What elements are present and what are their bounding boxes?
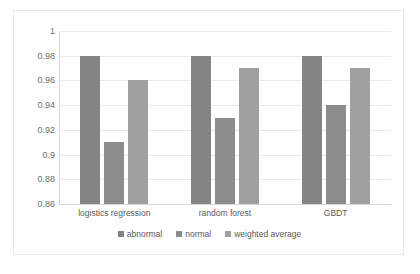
- chart-legend: abnormalnormalweighted average: [14, 229, 405, 239]
- chart-frame: 0.860.880.90.920.940.960.981 logistics r…: [13, 10, 404, 255]
- legend-label: weighted average: [234, 229, 301, 239]
- bar-weighted-average-random-forest: [239, 68, 259, 204]
- y-tick-label: 1: [15, 26, 55, 36]
- category-label: GBDT: [280, 207, 391, 219]
- gridline: [59, 80, 391, 81]
- gridline: [59, 204, 391, 205]
- bar-abnormal-logistics-regression: [80, 56, 100, 204]
- legend-item-abnormal[interactable]: abnormal: [118, 229, 162, 239]
- y-tick-label: 0.86: [15, 199, 55, 209]
- x-axis-category-labels: logistics regressionrandom forestGBDT: [59, 207, 391, 223]
- y-tick-label: 0.9: [15, 150, 55, 160]
- bar-weighted-average-logistics-regression: [128, 80, 148, 204]
- y-tick-label: 0.96: [15, 75, 55, 85]
- bar-weighted-average-GBDT: [350, 68, 370, 204]
- bar-abnormal-GBDT: [302, 56, 322, 204]
- legend-item-normal[interactable]: normal: [176, 229, 211, 239]
- y-axis-tick-labels: 0.860.880.90.920.940.960.981: [14, 31, 55, 204]
- y-tick-label: 0.94: [15, 100, 55, 110]
- bar-normal-logistics-regression: [104, 142, 124, 204]
- legend-swatch-icon: [176, 231, 182, 237]
- category-label: logistics regression: [59, 207, 170, 219]
- legend-label: abnormal: [127, 229, 162, 239]
- gridline: [59, 56, 391, 57]
- gridline: [59, 31, 391, 32]
- legend-swatch-icon: [118, 231, 124, 237]
- legend-label: normal: [185, 229, 211, 239]
- category-label: random forest: [170, 207, 281, 219]
- legend-item-weighted-average[interactable]: weighted average: [225, 229, 301, 239]
- y-tick-label: 0.88: [15, 174, 55, 184]
- bar-normal-random-forest: [215, 118, 235, 205]
- legend-swatch-icon: [225, 231, 231, 237]
- bar-abnormal-random-forest: [191, 56, 211, 204]
- y-tick-label: 0.92: [15, 125, 55, 135]
- plot-area: [59, 31, 391, 204]
- y-tick-label: 0.98: [15, 51, 55, 61]
- bar-normal-GBDT: [326, 105, 346, 204]
